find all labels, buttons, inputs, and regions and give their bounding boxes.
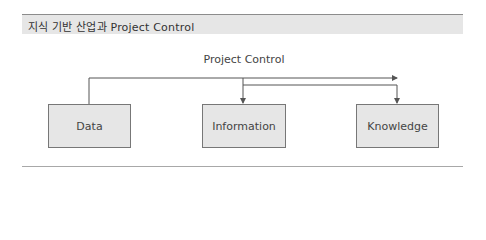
- node-data-label: Data: [76, 120, 102, 133]
- node-knowledge: Knowledge: [356, 104, 439, 148]
- node-data: Data: [48, 104, 131, 148]
- bottom-divider: [22, 166, 463, 167]
- node-knowledge-label: Knowledge: [367, 120, 427, 133]
- node-information: Information: [202, 104, 286, 148]
- to-knowledge-arrow: [243, 85, 397, 103]
- node-information-label: Information: [212, 120, 276, 133]
